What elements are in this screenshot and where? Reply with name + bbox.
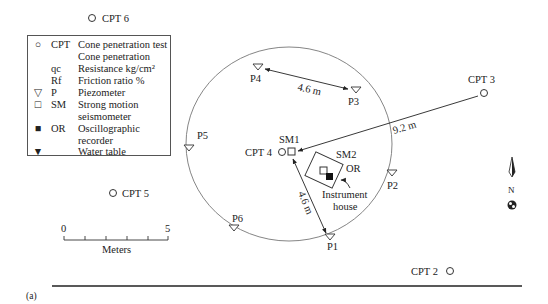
legend-desc: Cone penetration	[78, 51, 150, 63]
legend-desc: seismometer	[78, 111, 131, 123]
cpt-3-label: CPT 3	[468, 74, 495, 85]
north-label: N	[508, 185, 515, 195]
legend-desc: Piezometer	[78, 87, 125, 99]
north-arrow-icon	[508, 157, 517, 210]
legend-code: qc	[51, 63, 61, 75]
piezometer-p2-icon	[387, 170, 397, 176]
open-triangle-down-icon: ▽	[32, 87, 44, 99]
legend-code: CPT	[51, 39, 70, 51]
dimension-sm1-p1-label: 4.6 m	[296, 190, 315, 216]
p2-label: P2	[387, 180, 398, 191]
p5-label: P5	[197, 130, 208, 141]
cpt-4-icon	[279, 149, 286, 156]
piezometer-p3-icon	[351, 87, 361, 93]
instrument-house-label-line1: Instrument	[322, 189, 368, 200]
cpt-6-icon	[89, 15, 96, 22]
scale-start-label: 0	[61, 223, 66, 234]
sm2-label: SM2	[336, 149, 356, 160]
panel-label: (a)	[26, 291, 37, 302]
scale-bar	[64, 236, 168, 240]
instrument-house-label-line2: house	[333, 201, 358, 212]
legend-code: P	[51, 87, 57, 99]
p4-label: P4	[250, 73, 262, 84]
cpt-5-label: CPT 5	[122, 188, 149, 199]
legend-desc: Friction ratio %	[78, 75, 145, 87]
p1-label: P1	[327, 241, 338, 252]
cpt-2-label: CPT 2	[411, 266, 438, 277]
legend-code: SM	[51, 99, 66, 111]
dimension-p4-p3-label: 4.6 m	[297, 81, 323, 97]
cpt-2-icon	[447, 268, 454, 275]
cpt-6-label: CPT 6	[102, 13, 129, 24]
cpt-3-icon	[481, 90, 488, 97]
p6-label: P6	[232, 213, 243, 224]
cpt-5-icon	[110, 190, 117, 197]
piezometer-p1-icon	[325, 234, 335, 240]
instrument-house-pointer	[341, 180, 350, 188]
piezometer-p4-icon	[253, 64, 263, 70]
legend-desc: Oscillographic	[78, 123, 140, 135]
legend-desc: Water table	[78, 146, 126, 158]
filled-square-icon: ■	[32, 123, 44, 135]
legend: ○ CPT Cone penetration test Cone penetra…	[27, 35, 171, 156]
p3-label: P3	[348, 96, 359, 107]
water-table-icon: ▼	[32, 146, 44, 158]
legend-desc: Strong motion	[78, 99, 138, 111]
legend-code: Rf	[51, 75, 62, 87]
piezometer-p5-icon	[184, 145, 194, 151]
legend-desc: Resistance kg/cm²	[78, 63, 155, 75]
or-label: OR	[346, 163, 361, 174]
legend-desc: Cone penetration test	[78, 39, 167, 51]
sm2-seismometer-icon	[320, 167, 327, 174]
dimension-cpt3-sm1	[298, 96, 478, 151]
legend-code: OR	[51, 123, 66, 135]
open-circle-icon: ○	[32, 39, 44, 51]
cpt-4-label: CPT 4	[245, 147, 273, 158]
oscillographic-recorder-icon	[326, 173, 333, 180]
scale-end-label: 5	[165, 223, 170, 234]
sm1-label: SM1	[279, 134, 299, 145]
scale-unit-label: Meters	[102, 244, 131, 255]
open-square-icon: □	[32, 99, 44, 111]
sm1-seismometer-icon	[288, 148, 295, 155]
